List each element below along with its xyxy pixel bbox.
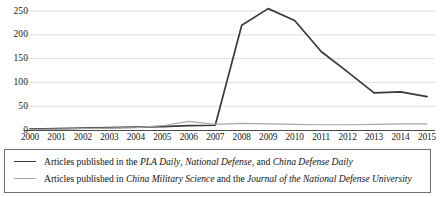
y-axis-tick-labels: 050100150200250 xyxy=(0,0,28,140)
series-line-primary xyxy=(30,9,427,129)
y-tick-label: 250 xyxy=(2,6,28,16)
legend-item-primary-series: Articles published in the PLA Daily, Nat… xyxy=(5,153,430,170)
y-tick-label: 150 xyxy=(2,53,28,63)
line-swatch-icon xyxy=(14,178,36,179)
series-line-secondary xyxy=(30,121,427,129)
data-series-group xyxy=(30,9,427,130)
legend-item-label: Articles published in the PLA Daily, Nat… xyxy=(44,156,353,168)
legend-item-label: Articles published in China Military Sci… xyxy=(44,173,412,185)
line-chart-canvas xyxy=(0,0,435,140)
y-tick-label: 50 xyxy=(2,101,28,111)
y-tick-label: 200 xyxy=(2,29,28,39)
line-swatch-icon xyxy=(14,161,36,162)
y-tick-label: 100 xyxy=(2,77,28,87)
x-axis-tick-labels: 2000200120022003200420052006200720082009… xyxy=(30,131,432,147)
legend-item-secondary-series: Articles published in China Military Sci… xyxy=(5,170,430,187)
chart-legend: Articles published in the PLA Daily, Nat… xyxy=(4,149,431,193)
plot-area xyxy=(0,0,435,140)
x-tick-label: 2015 xyxy=(412,131,441,143)
